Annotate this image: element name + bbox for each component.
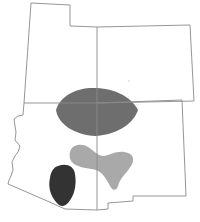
utah-border: [24, 3, 97, 103]
map-speck: [128, 80, 129, 81]
four-corners-map: [0, 0, 200, 222]
light-gray-region: [70, 145, 134, 190]
black-region: [49, 165, 75, 206]
